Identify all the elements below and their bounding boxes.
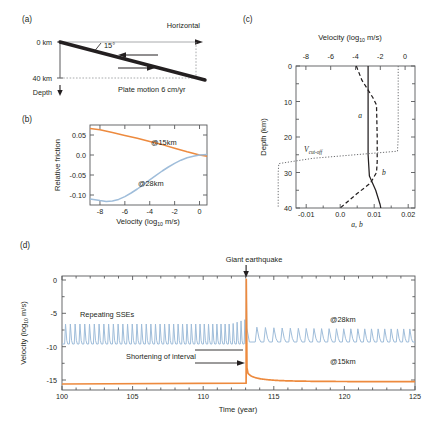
- panel-c-bottom-xtick-1: 0.0: [335, 210, 345, 219]
- panel-c-yticks: [296, 66, 415, 208]
- panel-b-xtick-1: -6: [122, 207, 128, 216]
- panel-a-dip-angle-label: 15°: [104, 41, 115, 50]
- panel-b-xtick-3: -2: [171, 207, 177, 216]
- panel-c-ytick-1: 10: [284, 98, 292, 107]
- panel-d-ann-shortening: Shortening of interval: [126, 352, 196, 361]
- panel-c-bottom-xticks: [306, 204, 408, 208]
- panel-d-ylabel-main: Velocity (log: [19, 324, 28, 365]
- panel-c-top-xtick-0: -8: [303, 52, 309, 61]
- panel-a-label: (a): [22, 15, 32, 24]
- panel-c-top-label-tail: m/s): [365, 33, 382, 42]
- panel-a: (a) 0 km 40 km Depth Horizontal 15°: [22, 15, 205, 97]
- panel-b-xlabel-main: Velocity (log: [116, 217, 157, 226]
- panel-b-xlabel-tail: m/s): [163, 217, 180, 226]
- panel-c-label-vcutoff: Vcut-off: [304, 145, 324, 155]
- panel-b-xtick-2b: -4: [147, 207, 153, 216]
- panel-a-depth-axis-label: Depth: [33, 88, 52, 97]
- panel-d-shortening-arrow-head: [237, 360, 245, 365]
- panel-a-bottom-depth-label: 40 km: [32, 74, 52, 83]
- panel-d-xtick-1: 105: [127, 392, 139, 401]
- panel-b-curve-15km: [90, 129, 207, 157]
- panel-c-top-xtick-4: 0: [403, 52, 407, 61]
- panel-d-ann-giant-earthquake: Giant earthquake: [226, 255, 283, 264]
- panel-c-label-b: b: [382, 168, 386, 177]
- panel-b-label-15km: @15km: [151, 138, 177, 147]
- panel-c-ytick-2: 20: [284, 133, 292, 142]
- panel-d-xtick-0: 100: [56, 392, 68, 401]
- panel-b-ytick-3: -0.10: [70, 191, 86, 200]
- figure-container: (a) 0 km 40 km Depth Horizontal 15°: [0, 0, 433, 427]
- panel-b-xtick-0: -8: [97, 207, 103, 216]
- panel-d-xtick-4: 120: [338, 392, 350, 401]
- panel-c-ytick-3: 30: [284, 169, 292, 178]
- panel-d-ytick-2: -10: [47, 343, 57, 352]
- panel-c-bottom-xtick-0: -0.01: [298, 210, 314, 219]
- panel-a-slab: [60, 42, 205, 80]
- panel-c-top-xtick-2: -4: [352, 52, 358, 61]
- panel-c-label-a: a: [358, 111, 362, 120]
- panel-b-ytick-2: -0.05: [70, 171, 86, 180]
- panel-c: (c) Velocity (log10 m/s) -8 -6 -4 -2 0: [243, 15, 415, 229]
- panel-c-top-xtick-1: -6: [327, 52, 333, 61]
- panel-a-top-depth-label: 0 km: [36, 38, 52, 47]
- panel-c-bottom-xtick-3: 0.02: [401, 210, 415, 219]
- panel-d-eq-arrow-head: [243, 271, 249, 278]
- panel-c-curve-b: [340, 66, 377, 208]
- panel-c-top-xtick-3: -2: [377, 52, 383, 61]
- panel-c-ylabel: Depth (km): [259, 118, 268, 156]
- panel-c-label: (c): [243, 15, 253, 24]
- panel-d-xtick-2: 110: [197, 392, 208, 401]
- panel-c-bottom-xtick-2: 0.01: [367, 210, 381, 219]
- panel-a-motion-arrow-upper: [118, 52, 158, 57]
- panel-d: (d) 0 -5 -10 -15: [19, 241, 421, 414]
- panel-b-xlabel: Velocity (log10 m/s): [116, 217, 180, 227]
- panel-b-ytick-1: 0.0: [76, 151, 86, 160]
- panel-d-xtick-5: 125: [409, 392, 421, 401]
- panel-b-xtick-4: 0: [198, 207, 202, 216]
- panel-d-label-28km: @28km: [330, 315, 356, 324]
- panel-b-ytick-0: 0.05: [72, 131, 86, 140]
- panel-b-label: (b): [22, 115, 32, 124]
- panel-d-xticks: [62, 276, 415, 390]
- panel-d-ylabel: Velocity (log10 m/s): [19, 301, 29, 365]
- panel-c-frame: [296, 66, 415, 208]
- panel-d-label-15km: @15km: [330, 357, 356, 366]
- panel-a-angle-mark: [95, 43, 101, 51]
- panel-b-curve-28km: [90, 155, 207, 202]
- panel-c-top-label-main: Velocity (log: [318, 33, 359, 42]
- panel-b-xticks: [100, 125, 200, 205]
- panel-c-ytick-4: 40: [284, 204, 292, 213]
- panel-c-top-xticks: [306, 66, 405, 70]
- panel-d-xlabel: Time (year): [219, 405, 258, 414]
- panel-b: (b) 0.05 0.0 -0.05 -0.10: [22, 115, 207, 227]
- panel-c-curve-a: [368, 66, 381, 208]
- panel-d-ytick-0: 0: [53, 276, 57, 285]
- panel-c-top-axis-label: Velocity (log10 m/s): [318, 33, 382, 43]
- panel-b-frame: [90, 125, 207, 205]
- panel-d-ann-repeating-sses: Repeating SSEs: [80, 310, 135, 319]
- panel-c-ytick-0: 0: [288, 62, 292, 71]
- panel-d-curve-15km: [62, 279, 415, 384]
- panel-b-ylabel: Relative friction: [53, 139, 62, 191]
- panel-b-label-28km: @28km: [138, 179, 164, 188]
- panel-d-ylabel-tail: m/s): [19, 301, 28, 318]
- panel-d-ytick-3: -15: [47, 376, 57, 385]
- panel-c-vcutoff-sub: cut-off: [309, 149, 324, 155]
- panel-d-curves: [62, 279, 415, 384]
- panel-d-ytick-1: -5: [51, 309, 57, 318]
- panel-a-horizontal-label: Horizontal: [167, 21, 201, 30]
- panel-a-depth-arrow-head: [57, 90, 62, 96]
- panel-d-label: (d): [20, 241, 30, 250]
- panel-c-bottom-xlabel: a, b: [351, 220, 363, 229]
- panel-a-plate-motion-label: Plate motion 6 cm/yr: [118, 85, 186, 94]
- figure-svg: (a) 0 km 40 km Depth Horizontal 15°: [0, 0, 433, 427]
- panel-d-xtick-3: 115: [268, 392, 279, 401]
- panel-d-frame: [62, 276, 415, 390]
